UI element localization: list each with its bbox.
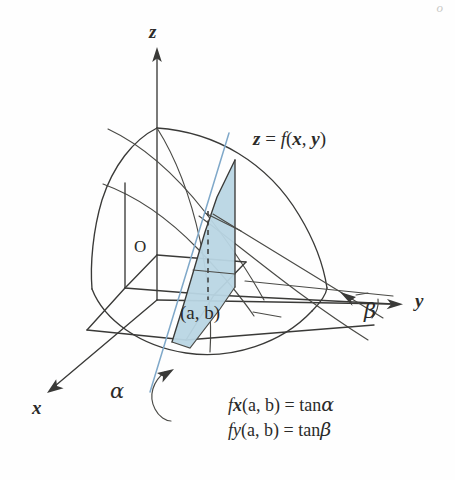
alpha-arrowhead [157, 369, 174, 383]
formula-fx-sub: x [233, 395, 242, 415]
point-ab-label: (a, b) [180, 303, 220, 322]
formula-fx-greek: α [321, 393, 334, 415]
surface-equation-label: z = f(x, y) [253, 129, 326, 148]
alpha-angle-label: α [110, 381, 124, 402]
figure-root: o [0, 0, 455, 480]
y-axis-label: y [415, 291, 423, 310]
point-label-leader-group [253, 312, 281, 317]
coordinate-box-group [87, 183, 393, 340]
alpha-arc [152, 372, 171, 421]
x-axis-label: x [32, 398, 42, 417]
base-guide-line-to-y [186, 325, 374, 340]
formula-fx-rhs: tan [299, 395, 321, 415]
box-front-edge-bottom [87, 330, 186, 340]
formula-fy-rhs: tan [298, 420, 320, 440]
formula-fx-args: (a, b) [242, 395, 280, 415]
point-leader-line [253, 312, 281, 317]
formula-fy-eq: = [284, 420, 294, 440]
formula-row-fy: fy(a, b) = tanβ [228, 417, 334, 442]
formula-fy-sub: y [233, 420, 241, 440]
formula-fx-eq: = [285, 395, 295, 415]
z-axis-label: z [149, 22, 156, 41]
origin-label: O [134, 238, 146, 255]
beta-reference-line [245, 281, 393, 296]
box-front-edge-left [87, 288, 125, 330]
box-base-edge-ox [125, 255, 157, 288]
formula-fy-greek: β [320, 418, 331, 440]
surface-eq-rest: = f(x, y) [260, 128, 326, 149]
formula-fy-args: (a, b) [241, 420, 279, 440]
beta-angle-label: β [364, 301, 376, 322]
formula-block: fx(a, b) = tanα fy(a, b) = tanβ [228, 392, 334, 443]
formula-row-fx: fx(a, b) = tanα [228, 392, 334, 417]
